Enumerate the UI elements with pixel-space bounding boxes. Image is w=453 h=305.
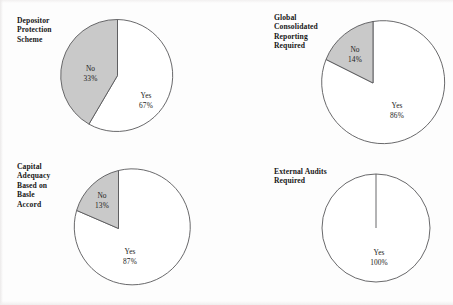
- pie-label-no-category-1: No: [86, 64, 95, 73]
- pie-graphic-1: No 33% Yes 67%: [61, 19, 174, 132]
- pie-chart-capital-adequacy-basle-accord: Capital Adequacy Based on Basle Accord N…: [0, 152, 226, 305]
- pie-label-yes-percent-4: 100%: [370, 258, 388, 267]
- pie-label-yes-category-3: Yes: [124, 247, 135, 256]
- pie-label-no-category-2: No: [350, 45, 359, 54]
- pie-graphic-3: No 13% Yes 87%: [60, 170, 177, 287]
- pie-label-no-percent-3: 13%: [95, 201, 109, 210]
- pie-chart-external-audits-required: External Audits Required Yes 100%: [226, 152, 453, 305]
- pie-graphic-2: No 14% Yes 86%: [311, 21, 435, 145]
- pie-label-no-category-3: No: [97, 191, 106, 200]
- pie-label-no-percent-1: 33%: [84, 74, 98, 83]
- figure-canvas: Depositor Protection Scheme No 33% Yes 6…: [0, 0, 453, 305]
- pie-label-yes-percent-3: 87%: [123, 257, 137, 266]
- pie-label-yes-category-2: Yes: [391, 101, 402, 110]
- pie-chart-global-consolidated-reporting-required: Global Consolidated Reporting Required N…: [226, 0, 453, 152]
- chart-title-depositor-protection-scheme: Depositor Protection Scheme: [17, 16, 52, 44]
- pie-graphic-4: Yes 100%: [321, 173, 431, 283]
- pie-label-yes-percent-2: 86%: [390, 111, 404, 120]
- pie-label-no-percent-2: 14%: [348, 55, 362, 64]
- pie-label-yes-category-1: Yes: [140, 91, 151, 100]
- chart-title-capital-adequacy-basle-accord: Capital Adequacy Based on Basle Accord: [17, 162, 50, 209]
- pie-chart-depositor-protection-scheme: Depositor Protection Scheme No 33% Yes 6…: [0, 0, 226, 152]
- pie-label-yes-percent-1: 67%: [139, 101, 153, 110]
- pie-label-yes-category-4: Yes: [373, 248, 384, 257]
- chart-title-external-audits-required: External Audits Required: [274, 167, 327, 186]
